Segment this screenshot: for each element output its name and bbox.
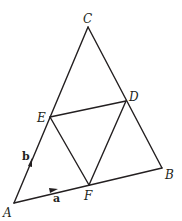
label-c: C: [83, 12, 92, 26]
segment-ca: [14, 27, 88, 203]
label-e: E: [36, 111, 46, 125]
label-d: D: [128, 90, 139, 104]
label-a: A: [2, 206, 12, 220]
segment-bc: [88, 27, 162, 168]
segment-fd: [89, 101, 126, 185]
segment-ed: [50, 101, 126, 117]
vector-label-a: a: [53, 192, 60, 205]
label-b: B: [164, 168, 174, 182]
label-f: F: [83, 189, 93, 203]
segment-ef: [50, 117, 89, 185]
triangle-diagram: A B C D E F a b: [0, 0, 182, 221]
vector-label-b: b: [22, 150, 30, 163]
